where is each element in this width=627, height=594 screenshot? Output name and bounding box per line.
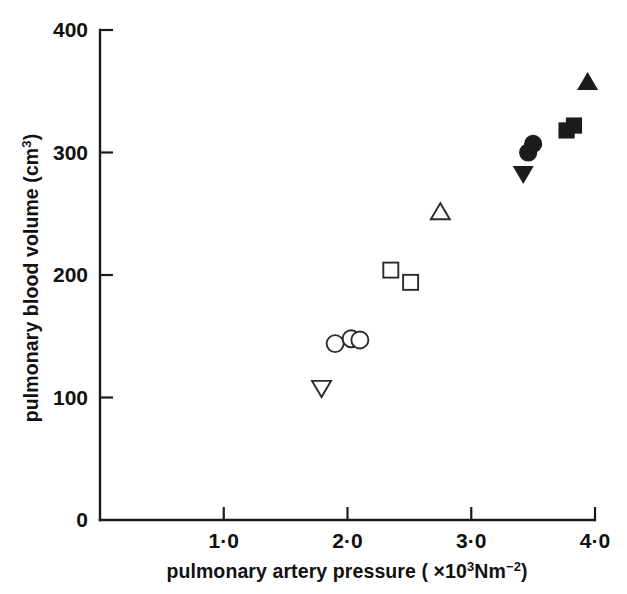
x-tick-label: 4·0: [580, 529, 610, 552]
x-axis-title: pulmonary artery pressure ( ×103Nm−2): [166, 559, 527, 582]
x-axis-tick-labels: 1·02·03·04·0: [209, 529, 611, 552]
point-circle-open-3: [351, 331, 368, 348]
y-tick-label: 0: [76, 508, 88, 531]
scatter-plot: 0100200300400 1·02·03·04·0 pulmonary art…: [0, 0, 627, 594]
point-circle-open-1: [327, 335, 344, 352]
x-tick-label: 3·0: [456, 529, 486, 552]
x-tick-label: 2·0: [332, 529, 362, 552]
y-axis-title: pulmonary blood volume (cm3): [19, 134, 42, 422]
x-axis-title-mid: Nm: [474, 560, 506, 582]
y-axis-title-sup-3: 3: [19, 140, 34, 147]
y-tick-label: 400: [53, 18, 88, 41]
y-axis-ticks: [100, 30, 113, 398]
y-axis-tick-labels: 0100200300400: [53, 18, 88, 531]
y-axis-title-main: pulmonary blood volume (cm: [20, 148, 42, 423]
x-axis-ticks: [224, 507, 595, 520]
point-square-filled-11: [566, 118, 581, 133]
point-square-open-4: [383, 263, 398, 278]
y-tick-label: 300: [53, 141, 88, 164]
point-square-open-5: [403, 275, 418, 290]
chart-page: 0100200300400 1·02·03·04·0 pulmonary art…: [0, 0, 627, 594]
x-axis-title-tail: ): [521, 560, 528, 582]
y-tick-label: 100: [53, 386, 88, 409]
x-axis-title-main: pulmonary artery pressure ( ×10: [166, 560, 467, 582]
y-tick-label: 200: [53, 263, 88, 286]
point-triangle-up-open-6: [431, 203, 450, 219]
point-triangle-down-filled-7: [514, 167, 533, 183]
point-triangle-up-filled-12: [578, 73, 597, 89]
point-triangle-down-open-0: [312, 381, 331, 397]
y-axis-title-tail: ): [20, 134, 42, 141]
point-circle-filled-9: [525, 135, 542, 152]
x-axis-title-sup-3: 3: [467, 559, 474, 574]
x-axis-title-sup-minus2: −2: [506, 559, 521, 574]
data-markers: [312, 73, 597, 397]
x-tick-label: 1·0: [209, 529, 239, 552]
